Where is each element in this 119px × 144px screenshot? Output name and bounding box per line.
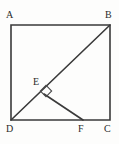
vertex-label-c: C — [104, 124, 111, 134]
vertex-label-b: B — [105, 10, 112, 20]
geometry-figure-page: A B E D F C — [0, 0, 119, 144]
vertex-label-d: D — [6, 124, 13, 134]
figure-background — [0, 0, 119, 144]
geometry-diagram-canvas — [0, 0, 119, 144]
vertex-label-a: A — [6, 10, 13, 20]
vertex-label-e: E — [33, 77, 39, 87]
vertex-label-f: F — [78, 124, 84, 134]
